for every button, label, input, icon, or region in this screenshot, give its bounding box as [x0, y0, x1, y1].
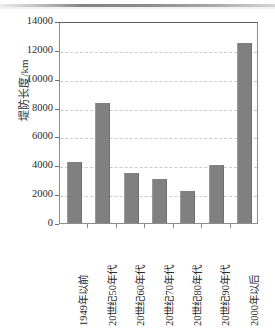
bar: [124, 173, 139, 223]
x-axis-tick-label: 20世纪80年代: [192, 230, 203, 326]
bar: [209, 165, 224, 223]
bar: [152, 179, 167, 223]
bar: [237, 43, 252, 223]
y-axis-tick-label: 4000: [7, 160, 53, 170]
x-axis-tick-label: 20世纪50年代: [107, 230, 118, 326]
x-axis-tick-label: 20世纪70年代: [164, 230, 175, 326]
x-axis-tick-label: 2000年以后: [249, 230, 260, 326]
scan-artifact-line-secondary: [0, 7, 275, 9]
x-axis-tick-label: 20世纪60年代: [135, 230, 146, 326]
x-axis-tick-label: 20世纪90年代: [220, 230, 231, 326]
y-axis-tick-label: 14000: [7, 16, 53, 26]
y-axis-tick-label: 12000: [7, 45, 53, 55]
bar: [180, 191, 195, 223]
y-axis-tick-mark: [55, 224, 59, 225]
plot-area: [59, 22, 258, 224]
x-axis-tick-label: 1949年以前: [78, 230, 89, 326]
x-axis-tick-labels: 1949年以前20世纪50年代20世纪60年代20世纪70年代20世纪80年代2…: [59, 228, 258, 332]
bar: [95, 103, 110, 223]
y-axis-tick-label: 0: [7, 218, 53, 228]
y-axis-tick-label: 2000: [7, 189, 53, 199]
chart-figure: 堤防长度/km 02000400060008000100001200014000…: [0, 0, 275, 332]
bar-series: [60, 23, 257, 223]
y-axis-tick-label: 6000: [7, 131, 53, 141]
bar: [67, 162, 82, 223]
y-axis-tick-label: 10000: [7, 74, 53, 84]
y-axis-tick-label: 8000: [7, 103, 53, 113]
